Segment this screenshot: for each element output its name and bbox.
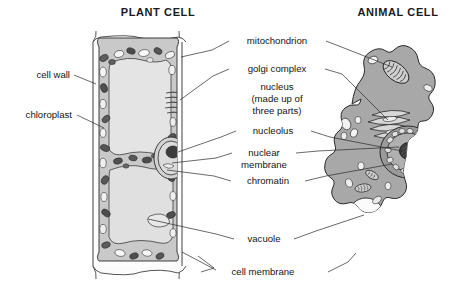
animal-nucleus bbox=[380, 126, 436, 178]
leader-cell-membrane-plant-a bbox=[198, 256, 214, 272]
animal-cell-figure bbox=[325, 46, 450, 258]
plant-cell-figure bbox=[93, 31, 188, 279]
leader-nucleolus-plant bbox=[178, 131, 236, 152]
diagram-canvas: PLANT CELL ANIMAL CELL bbox=[0, 0, 471, 291]
leader-vacuole-animal bbox=[294, 215, 364, 239]
label-nucleolus: nucleolus bbox=[253, 125, 294, 136]
plant-organelle-lobed bbox=[148, 214, 170, 227]
leader-golgi-plant bbox=[180, 69, 229, 100]
label-chloroplast: chloroplast bbox=[26, 109, 73, 120]
label-vacuole: vacuole bbox=[247, 233, 280, 244]
label-nuclear-line2: membrane bbox=[241, 159, 287, 170]
leader-cell-membrane-animal bbox=[328, 253, 356, 272]
label-cell-wall: cell wall bbox=[36, 69, 70, 80]
label-cell-membrane: cell membrane bbox=[232, 266, 295, 277]
cell-diagram: PLANT CELL ANIMAL CELL bbox=[0, 0, 471, 291]
label-nucleus-line1: nucleus bbox=[260, 81, 293, 92]
leader-cell-membrane-plant-b bbox=[182, 252, 216, 270]
label-chromatin: chromatin bbox=[247, 175, 289, 186]
plant-nucleus bbox=[154, 137, 188, 179]
animal-nucleolus bbox=[400, 143, 419, 160]
plant-cell-title: PLANT CELL bbox=[121, 6, 195, 18]
label-golgi-complex: golgi complex bbox=[248, 63, 307, 74]
leader-mitochondrion-plant bbox=[181, 41, 229, 57]
label-mitochondrion: mitochondrion bbox=[247, 35, 307, 46]
label-nucleus-line3: three parts) bbox=[252, 105, 301, 116]
animal-cell-title: ANIMAL CELL bbox=[358, 6, 439, 18]
label-nuclear-line1: nuclear bbox=[248, 147, 280, 158]
label-nucleus-line2: (made up of bbox=[251, 93, 303, 104]
